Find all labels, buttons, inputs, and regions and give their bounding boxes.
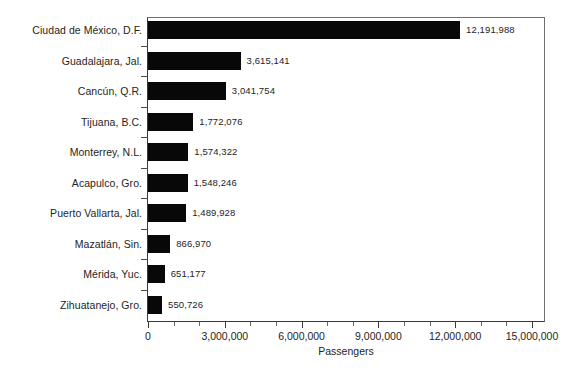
x-axis-major-tick bbox=[225, 322, 226, 328]
x-axis-tick-labels: 03,000,0006,000,0009,000,00012,000,00015… bbox=[0, 330, 585, 346]
x-axis-tick-label: 6,000,000 bbox=[278, 330, 325, 343]
x-axis-tick-label: 12,000,000 bbox=[429, 330, 482, 343]
category-label: Acapulco, Gro. bbox=[0, 177, 142, 189]
bar-value-label: 3,041,754 bbox=[232, 86, 275, 96]
x-axis-minor-tick bbox=[404, 322, 405, 326]
x-axis-title: Passengers bbox=[147, 345, 545, 357]
category-axis-labels: Ciudad de México, D.F.Guadalajara, Jal.C… bbox=[0, 17, 142, 322]
category-label: Mérida, Yuc. bbox=[0, 268, 142, 280]
x-axis-minor-tick bbox=[481, 322, 482, 326]
x-axis-minor-tick bbox=[506, 322, 507, 326]
category-axis-tick bbox=[141, 229, 148, 230]
x-axis-minor-tick bbox=[353, 322, 354, 326]
category-label: Puerto Vallarta, Jal. bbox=[0, 207, 142, 219]
bar-value-label: 12,191,988 bbox=[466, 25, 515, 35]
category-label: Cancún, Q.R. bbox=[0, 85, 142, 97]
bar-value-label: 651,177 bbox=[171, 269, 206, 279]
bars-layer: 12,191,9883,615,1413,041,7541,772,0761,5… bbox=[148, 17, 545, 322]
category-axis-tick bbox=[141, 168, 148, 169]
x-axis-minor-tick bbox=[250, 322, 251, 326]
category-axis-tick bbox=[141, 259, 148, 260]
x-axis-minor-tick bbox=[327, 322, 328, 326]
bar bbox=[148, 174, 188, 192]
x-axis-major-tick bbox=[378, 322, 379, 328]
x-axis-major-tick bbox=[455, 322, 456, 328]
x-axis-minor-tick bbox=[174, 322, 175, 326]
x-axis-tick-label: 0 bbox=[145, 330, 151, 343]
x-axis-major-tick bbox=[148, 322, 149, 328]
bar-value-label: 1,548,246 bbox=[194, 178, 237, 188]
category-label: Ciudad de México, D.F. bbox=[0, 24, 142, 36]
category-label: Monterrey, N.L. bbox=[0, 146, 142, 158]
x-axis-tick-label: 15,000,000 bbox=[506, 330, 559, 343]
x-axis-tick-label: 3,000,000 bbox=[201, 330, 248, 343]
category-axis-tick bbox=[141, 76, 148, 77]
category-axis-tick bbox=[141, 137, 148, 138]
bar bbox=[148, 21, 460, 39]
bar bbox=[148, 204, 186, 222]
x-axis-minor-tick bbox=[276, 322, 277, 326]
x-axis-minor-tick bbox=[430, 322, 431, 326]
bar bbox=[148, 296, 162, 314]
x-axis-tick-label: 9,000,000 bbox=[355, 330, 402, 343]
category-label: Mazatlán, Sin. bbox=[0, 238, 142, 250]
bar bbox=[148, 82, 226, 100]
bar bbox=[148, 52, 241, 70]
bar-value-label: 1,489,928 bbox=[192, 208, 235, 218]
category-axis-tick bbox=[141, 46, 148, 47]
x-axis-major-tick bbox=[532, 322, 533, 328]
bar-value-label: 1,772,076 bbox=[199, 117, 242, 127]
bar-chart-figure: Ciudad de México, D.F.Guadalajara, Jal.C… bbox=[0, 0, 585, 380]
category-label: Tijuana, B.C. bbox=[0, 116, 142, 128]
category-axis-tick bbox=[141, 290, 148, 291]
x-axis-ticks bbox=[147, 322, 546, 330]
bar-value-label: 1,574,322 bbox=[194, 147, 237, 157]
bar-value-label: 3,615,141 bbox=[247, 56, 290, 66]
category-label: Zihuatanejo, Gro. bbox=[0, 299, 142, 311]
category-axis-tick bbox=[141, 198, 148, 199]
bar bbox=[148, 143, 188, 161]
bar bbox=[148, 113, 193, 131]
x-axis-major-tick bbox=[302, 322, 303, 328]
bar-value-label: 866,970 bbox=[176, 239, 211, 249]
bar bbox=[148, 235, 170, 253]
category-axis-tick bbox=[141, 107, 148, 108]
category-label: Guadalajara, Jal. bbox=[0, 55, 142, 67]
bar-value-label: 550,726 bbox=[168, 300, 203, 310]
bar bbox=[148, 265, 165, 283]
x-axis-minor-tick bbox=[199, 322, 200, 326]
